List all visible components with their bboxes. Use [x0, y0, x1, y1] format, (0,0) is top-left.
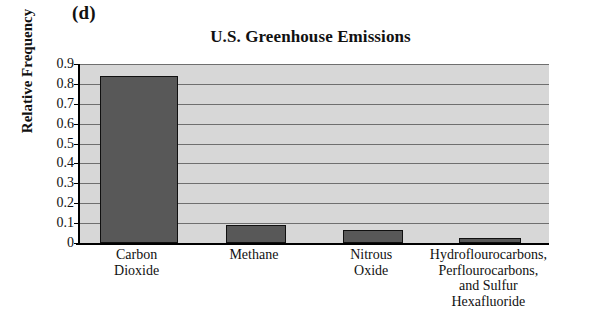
x-category-label: Hydroflourocarbons,Perflourocarbons,and …	[406, 247, 571, 309]
x-category-label-line: Perflourocarbons,	[406, 263, 571, 279]
plot-area	[78, 64, 549, 243]
y-tick-label: 0.6	[40, 118, 74, 130]
chart-title: U.S. Greenhouse Emissions	[0, 27, 595, 47]
bar	[100, 76, 178, 243]
x-category-label-line: Methane	[194, 247, 314, 263]
x-category-label: Methane	[194, 247, 314, 263]
x-category-label-line: Hexafluoride	[406, 294, 571, 310]
y-tick-label: 0.5	[40, 138, 74, 150]
y-axis-title: Relative Frequency	[16, 0, 38, 164]
panel-letter-label: (d)	[72, 2, 96, 24]
bar-series	[80, 64, 549, 243]
y-tick-label: 0.3	[40, 177, 74, 189]
x-category-label-line: Dioxide	[77, 263, 197, 279]
x-axis-category-labels: CarbonDioxideMethaneNitrousOxideHydroflo…	[78, 247, 547, 322]
figure-panel: (d) U.S. Greenhouse Emissions Relative F…	[0, 0, 595, 322]
y-tick-label: 0.1	[40, 217, 74, 229]
y-tick-label: 0.8	[40, 78, 74, 90]
x-category-label-line: Carbon	[77, 247, 197, 263]
y-tick-label: 0.7	[40, 98, 74, 110]
y-tick-label: 0	[40, 237, 74, 249]
y-tick-label: 0.2	[40, 197, 74, 209]
bar	[343, 230, 403, 243]
x-category-label: CarbonDioxide	[77, 247, 197, 278]
bar	[226, 225, 286, 243]
x-category-label-line: and Sulfur	[406, 278, 571, 294]
x-category-label-line: Hydroflourocarbons,	[406, 247, 571, 263]
y-axis-tick-labels: 0.90.80.70.60.50.40.30.20.10	[40, 57, 74, 247]
y-tick-label: 0.4	[40, 157, 74, 169]
x-axis-line	[76, 243, 549, 245]
y-tick-label: 0.9	[40, 58, 74, 70]
